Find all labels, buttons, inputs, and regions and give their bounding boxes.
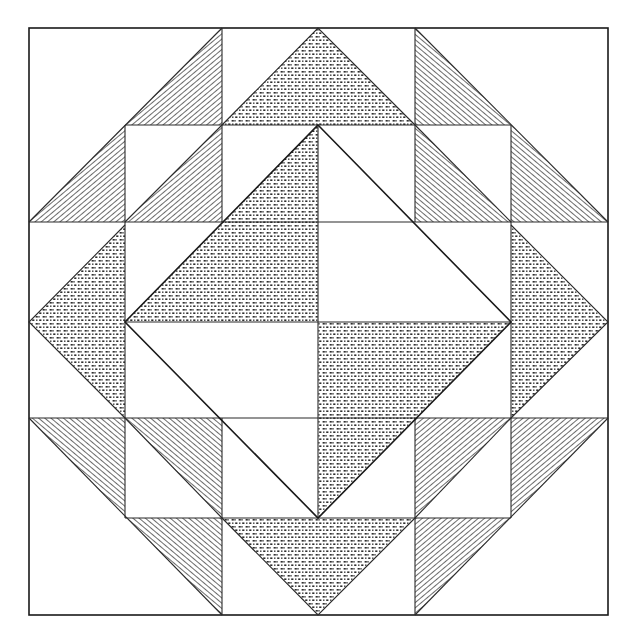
quilt-block-diagram <box>0 0 627 644</box>
